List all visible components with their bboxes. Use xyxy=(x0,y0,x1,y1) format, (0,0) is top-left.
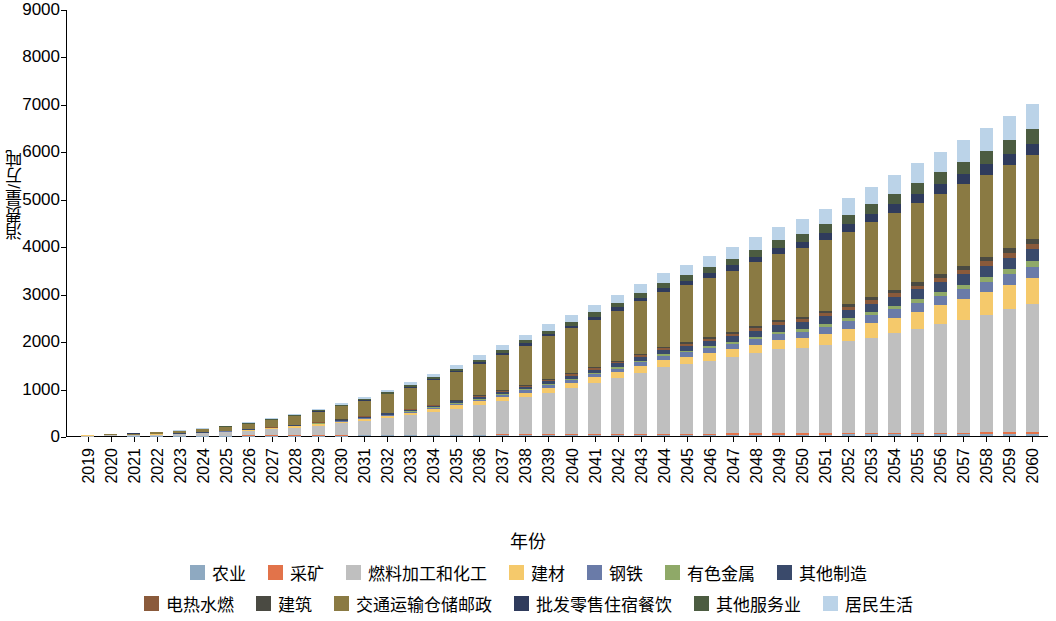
bar-segment xyxy=(427,435,440,436)
bar-segment xyxy=(496,355,509,390)
table-row xyxy=(1026,104,1039,436)
legend-row: 电热水燃建筑交通运输仓储邮政批发零售住宿餐饮其他服务业居民生活 xyxy=(144,591,913,616)
bar-segment xyxy=(519,397,532,434)
bar-segment xyxy=(473,364,486,395)
x-tick-mark xyxy=(710,437,711,442)
bar-segment xyxy=(611,295,624,303)
legend-item[interactable]: 农业 xyxy=(190,560,246,585)
table-row xyxy=(427,374,440,436)
bar-segment xyxy=(842,434,855,436)
x-tick-label: 2019 xyxy=(80,448,98,484)
table-row xyxy=(726,247,739,436)
bar-segment xyxy=(772,349,785,433)
bar-segment xyxy=(911,329,924,433)
bar-segment xyxy=(726,259,739,266)
bar-segment xyxy=(934,194,947,274)
legend-item[interactable]: 建材 xyxy=(509,560,565,585)
x-tick-mark xyxy=(456,437,457,442)
legend-item[interactable]: 有色金属 xyxy=(665,560,755,585)
legend-item[interactable]: 建筑 xyxy=(256,591,312,616)
x-tick-label: 2029 xyxy=(310,448,328,484)
table-row xyxy=(404,382,417,436)
bar-segment xyxy=(634,301,647,353)
legend-item[interactable]: 交通运输仓储邮政 xyxy=(334,591,492,616)
bar-series-group xyxy=(66,10,1048,437)
legend-item[interactable]: 燃料加工和化工 xyxy=(346,560,487,585)
legend-label: 采矿 xyxy=(290,560,324,585)
bar-segment xyxy=(1003,116,1016,140)
bar-segment xyxy=(1003,258,1016,270)
bar-segment xyxy=(1003,309,1016,432)
bar-segment xyxy=(427,412,440,435)
legend-swatch-icon xyxy=(514,596,529,611)
bar-segment xyxy=(934,296,947,305)
table-row xyxy=(196,428,209,436)
bar-segment xyxy=(911,194,924,203)
bar-segment xyxy=(957,184,970,266)
x-tick-mark xyxy=(871,437,872,442)
bar-segment xyxy=(1003,285,1016,309)
bar-segment xyxy=(381,435,394,436)
legend-item[interactable]: 采矿 xyxy=(268,560,324,585)
legend-label: 其他制造 xyxy=(799,560,867,585)
bar-segment xyxy=(772,227,785,241)
bar-segment xyxy=(865,338,878,433)
x-tick-mark xyxy=(664,437,665,442)
x-tick-label: 2023 xyxy=(172,448,190,484)
bar-segment xyxy=(865,187,878,205)
bar-segment xyxy=(450,372,463,400)
legend-item[interactable]: 居民生活 xyxy=(823,591,913,616)
x-tick-label: 2039 xyxy=(540,448,558,484)
bar-segment xyxy=(749,353,762,433)
bar-segment xyxy=(680,357,693,364)
x-tick-label: 2057 xyxy=(955,448,973,484)
bar-segment xyxy=(934,305,947,324)
bar-segment xyxy=(796,219,809,234)
bar-segment xyxy=(680,285,693,342)
bar-segment xyxy=(865,304,878,312)
y-tick-label: 0 xyxy=(51,427,60,447)
x-tick-label: 2031 xyxy=(356,448,374,484)
x-tick-label: 2038 xyxy=(517,448,535,484)
legend-label: 建材 xyxy=(531,560,565,585)
legend-item[interactable]: 其他制造 xyxy=(777,560,867,585)
y-tick-mark xyxy=(61,200,66,201)
x-tick-label: 2045 xyxy=(679,448,697,484)
bar-segment xyxy=(957,140,970,162)
bar-segment xyxy=(842,321,855,328)
legend-swatch-icon xyxy=(823,596,838,611)
legend-swatch-icon xyxy=(694,596,709,611)
bar-segment xyxy=(980,266,993,277)
y-tick-label: 7000 xyxy=(22,95,60,115)
table-row xyxy=(703,256,716,436)
bar-segment xyxy=(565,315,578,322)
y-tick-label: 1000 xyxy=(22,380,60,400)
x-tick-mark xyxy=(894,437,895,442)
legend-item[interactable]: 钢铁 xyxy=(587,560,643,585)
x-tick-mark xyxy=(226,437,227,442)
bar-segment xyxy=(726,357,739,433)
bar-segment xyxy=(911,312,924,329)
bar-segment xyxy=(980,282,993,292)
table-row xyxy=(288,414,301,436)
legend-item[interactable]: 其他服务业 xyxy=(694,591,801,616)
x-tick-label: 2049 xyxy=(771,448,789,484)
bar-segment xyxy=(1026,249,1039,261)
y-tick-mark xyxy=(61,152,66,153)
x-tick-mark xyxy=(180,437,181,442)
x-tick-label: 2037 xyxy=(494,448,512,484)
table-row xyxy=(911,163,924,436)
bar-segment xyxy=(819,233,832,240)
y-tick-label: 9000 xyxy=(22,0,60,20)
bar-segment xyxy=(934,172,947,184)
legend-item[interactable]: 电热水燃 xyxy=(144,591,234,616)
table-row xyxy=(611,295,624,436)
bar-segment xyxy=(703,361,716,434)
x-tick-label: 2059 xyxy=(1001,448,1019,484)
bar-segment xyxy=(565,328,578,373)
chart-container: 消费量/万吨 010002000300040005000600070008000… xyxy=(0,0,1056,621)
bar-segment xyxy=(1003,165,1016,249)
legend-item[interactable]: 批发零售住宿餐饮 xyxy=(514,591,672,616)
table-row xyxy=(219,426,232,436)
bar-segment xyxy=(888,194,901,205)
